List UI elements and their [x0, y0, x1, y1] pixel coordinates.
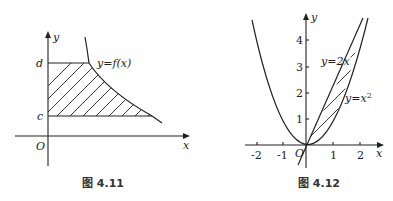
x-tick-label: 2 [357, 149, 364, 162]
parabola-label: y=x2 [344, 91, 372, 105]
y-axis-arrow-icon [45, 31, 51, 38]
figure-caption-4-11: 图 4.11 [82, 177, 124, 190]
y-axis-label: y [52, 31, 60, 44]
curve-f [85, 37, 162, 123]
y-tick-label: 4 [296, 34, 303, 47]
origin-label: O [36, 140, 45, 153]
x-axis-label: x [183, 139, 190, 152]
x-axis-label: x [376, 147, 383, 160]
x-tick-label: -2 [251, 149, 262, 162]
figure-4-12: -2 -1 1 2 1 2 3 4 y x O y=2x y=x2 图 4.12 [245, 11, 384, 190]
y-tick-label: 3 [296, 61, 303, 74]
x-tick-label: -1 [277, 149, 288, 162]
y-tick-label: 1 [296, 113, 303, 126]
figure-4-11: y x O d c y=f(x) 图 4.11 [4, 31, 227, 190]
y-mark-c: c [37, 110, 43, 123]
y-axis-label: y [310, 11, 318, 24]
curve-label-f: y=f(x) [96, 57, 131, 70]
origin-label: O [295, 147, 304, 160]
y-axis-arrow-icon [303, 13, 309, 20]
curve-parabola [252, 18, 368, 145]
figures-canvas: y x O d c y=f(x) 图 4.11 [0, 0, 393, 201]
y-tick-label: 2 [296, 87, 303, 100]
x-tick-label: 1 [330, 149, 337, 162]
figure-caption-4-12: 图 4.12 [298, 177, 340, 190]
line-2x-label: y=2x [320, 55, 350, 68]
y-mark-d: d [36, 57, 43, 70]
